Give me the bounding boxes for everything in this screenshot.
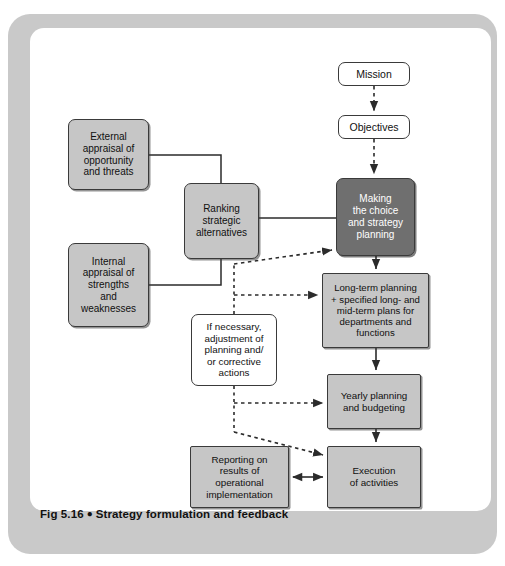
- strategy-formulation-diagram: Mission Objectives External appraisal of…: [0, 0, 505, 566]
- figure-caption: Fig 5.16●Strategy formulation and feedba…: [40, 508, 288, 520]
- node-internal-appraisal-label: Internal appraisal of strengths and weak…: [78, 256, 139, 315]
- node-reporting-label: Reporting on results of operational impl…: [203, 454, 275, 500]
- node-long-term-planning-label: Long-term planning + specified long- and…: [328, 282, 423, 339]
- node-making-choice-label: Making the choice and strategy planning: [345, 193, 406, 240]
- edge-external-to-ranking: [149, 155, 221, 183]
- node-long-term-planning[interactable]: Long-term planning + specified long- and…: [322, 273, 429, 348]
- node-external-appraisal-label: External appraisal of opportunity and th…: [80, 131, 138, 178]
- node-if-necessary-adjustment[interactable]: If necessary, adjustment of planning and…: [191, 314, 277, 386]
- node-external-appraisal[interactable]: External appraisal of opportunity and th…: [68, 119, 149, 190]
- figure-caption-bullet: ●: [84, 508, 96, 519]
- node-internal-appraisal[interactable]: Internal appraisal of strengths and weak…: [68, 243, 149, 327]
- node-objectives-label: Objectives: [346, 121, 401, 133]
- node-reporting[interactable]: Reporting on results of operational impl…: [190, 446, 289, 508]
- node-ranking-alternatives-label: Ranking strategic alternatives: [193, 203, 250, 238]
- node-execution[interactable]: Execution of activities: [327, 446, 421, 508]
- node-yearly-planning-label: Yearly planning and budgeting: [338, 390, 411, 413]
- node-execution-label: Execution of activities: [347, 465, 401, 488]
- node-mission-label: Mission: [353, 68, 395, 80]
- node-objectives[interactable]: Objectives: [338, 115, 410, 139]
- figure-caption-number: Fig 5.16: [40, 508, 84, 520]
- node-yearly-planning[interactable]: Yearly planning and budgeting: [327, 374, 421, 429]
- figure-caption-title: Strategy formulation and feedback: [96, 508, 288, 520]
- node-making-choice[interactable]: Making the choice and strategy planning: [336, 178, 415, 256]
- node-mission[interactable]: Mission: [338, 62, 410, 86]
- node-if-necessary-adjustment-label: If necessary, adjustment of planning and…: [202, 321, 267, 379]
- node-ranking-alternatives[interactable]: Ranking strategic alternatives: [184, 183, 259, 259]
- edge-internal-to-ranking: [149, 259, 221, 285]
